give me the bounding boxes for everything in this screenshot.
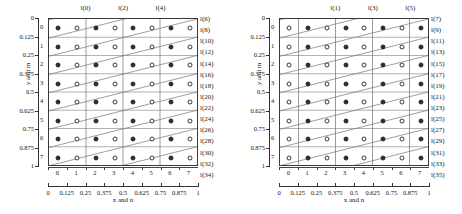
- node-marker-filled: [131, 81, 136, 86]
- top-line-label: l(3): [368, 4, 378, 12]
- right-line-label: l(30): [200, 149, 214, 157]
- y-tick-mark: [35, 92, 39, 93]
- y-tick-mark: [266, 74, 270, 75]
- row-index-label: 1: [271, 42, 274, 49]
- node-marker-filled: [131, 100, 136, 105]
- x-tick-mark: [123, 183, 124, 187]
- row-index-label: 3: [40, 79, 43, 86]
- node-marker-filled: [56, 81, 61, 86]
- node-marker-filled: [418, 100, 423, 105]
- col-index-label: 4: [357, 169, 369, 176]
- y-tick-label: 1: [231, 162, 265, 169]
- right-line-label: l(33): [431, 160, 445, 168]
- node-marker-filled: [306, 26, 311, 31]
- node-marker-filled: [343, 26, 348, 31]
- col-index-label: 0: [282, 169, 294, 176]
- x-tick-mark: [86, 183, 87, 187]
- node-marker-filled: [131, 155, 136, 160]
- x-tick-mark: [317, 183, 318, 187]
- row-index-label: 1: [40, 42, 43, 49]
- node-marker-open: [362, 26, 367, 31]
- node-marker-filled: [343, 155, 348, 160]
- node-marker-open: [75, 63, 80, 68]
- y-tick-label: 0.5: [231, 88, 265, 95]
- y-tick-label: 0.625: [0, 107, 34, 114]
- right-line-label: l(11): [431, 37, 444, 45]
- node-marker-open: [362, 44, 367, 49]
- top-line-label: l(4): [155, 4, 165, 12]
- col-index-label: 6: [164, 169, 176, 176]
- node-marker-open: [287, 26, 292, 31]
- y-tick-mark: [266, 92, 270, 93]
- col-index-label: 2: [89, 169, 101, 176]
- x-tick-mark: [67, 183, 68, 187]
- node-marker-open: [287, 81, 292, 86]
- col-index-label: 3: [339, 169, 351, 176]
- node-marker-filled: [381, 100, 386, 105]
- node-marker-filled: [168, 26, 173, 31]
- right-line-label: l(26): [200, 126, 214, 134]
- right-line-label: l(14): [200, 60, 214, 68]
- node-marker-open: [75, 26, 80, 31]
- x-tick-mark: [104, 183, 105, 187]
- node-marker-open: [399, 81, 404, 86]
- node-marker-open: [324, 118, 329, 123]
- y-tick-label: 0.375: [0, 70, 34, 77]
- y-tick-label: 0.625: [231, 107, 265, 114]
- y-tick-mark: [35, 166, 39, 167]
- node-marker-filled: [343, 100, 348, 105]
- node-marker-filled: [343, 63, 348, 68]
- col-index-label: 5: [145, 169, 157, 176]
- node-marker-filled: [168, 155, 173, 160]
- x-tick-mark: [179, 183, 180, 187]
- right-line-label: l(13): [431, 48, 445, 56]
- right-line-label: l(21): [431, 93, 445, 101]
- right-line-label: l(32): [200, 160, 214, 168]
- row-index-label: 7: [40, 153, 43, 160]
- node-marker-filled: [418, 63, 423, 68]
- node-marker-filled: [418, 118, 423, 123]
- node-marker-open: [399, 118, 404, 123]
- node-marker-open: [324, 63, 329, 68]
- node-marker-filled: [306, 63, 311, 68]
- node-marker-open: [112, 44, 117, 49]
- y-tick-mark: [266, 129, 270, 130]
- node-marker-open: [187, 118, 192, 123]
- node-marker-open: [362, 100, 367, 105]
- y-tick-mark: [35, 74, 39, 75]
- x-tick-label: 1: [417, 189, 441, 196]
- y-tick-label: 0.25: [0, 51, 34, 58]
- node-marker-filled: [343, 118, 348, 123]
- y-tick-mark: [266, 37, 270, 38]
- y-tick-label: 0.375: [231, 70, 265, 77]
- node-marker-filled: [381, 81, 386, 86]
- node-marker-filled: [306, 81, 311, 86]
- node-marker-filled: [306, 44, 311, 49]
- right-line-label: l(12): [200, 48, 214, 56]
- x-tick-mark: [392, 183, 393, 187]
- y-tick-mark: [35, 148, 39, 149]
- col-index-label: 5: [376, 169, 388, 176]
- right-line-label: l(34): [200, 171, 214, 179]
- node-marker-filled: [93, 26, 98, 31]
- node-marker-filled: [56, 118, 61, 123]
- row-index-label: 6: [271, 134, 274, 141]
- node-marker-filled: [93, 44, 98, 49]
- node-marker-open: [75, 100, 80, 105]
- row-index-label: 0: [40, 23, 43, 30]
- x-tick-mark: [373, 183, 374, 187]
- node-marker-filled: [56, 26, 61, 31]
- left-panel-gridlines: [49, 19, 197, 165]
- right-panel-x-axis-label: x and n: [279, 196, 429, 204]
- y-tick-label: 0.75: [0, 125, 34, 132]
- node-marker-open: [287, 118, 292, 123]
- x-tick-mark: [429, 183, 430, 187]
- node-marker-open: [150, 118, 155, 123]
- node-marker-filled: [306, 155, 311, 160]
- right-line-label: l(9): [431, 26, 441, 34]
- node-marker-filled: [418, 44, 423, 49]
- node-marker-open: [187, 44, 192, 49]
- node-marker-open: [324, 100, 329, 105]
- x-tick-mark: [335, 183, 336, 187]
- right-line-label: l(31): [431, 149, 445, 157]
